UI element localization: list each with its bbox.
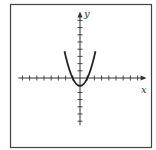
y-axis-label: y (83, 8, 90, 19)
x-axis-label: x (141, 84, 147, 95)
parabola-graph: x y (0, 0, 156, 150)
